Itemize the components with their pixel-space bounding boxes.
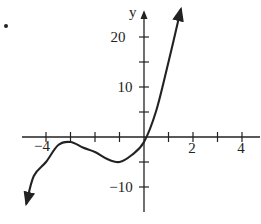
y-tick-label-neg10: −10 (109, 179, 132, 195)
x-tick-label-2: 2 (188, 140, 196, 156)
cubic-function-graph: y 20 10 −10 −4 2 4 (0, 0, 261, 224)
x-tick-label-neg4: −4 (34, 138, 50, 154)
function-curve (26, 10, 180, 204)
x-tick-label-4: 4 (237, 140, 245, 156)
y-tick-label-20: 20 (111, 29, 126, 45)
y-axis-label: y (129, 4, 137, 20)
y-tick-label-10: 10 (118, 79, 133, 95)
